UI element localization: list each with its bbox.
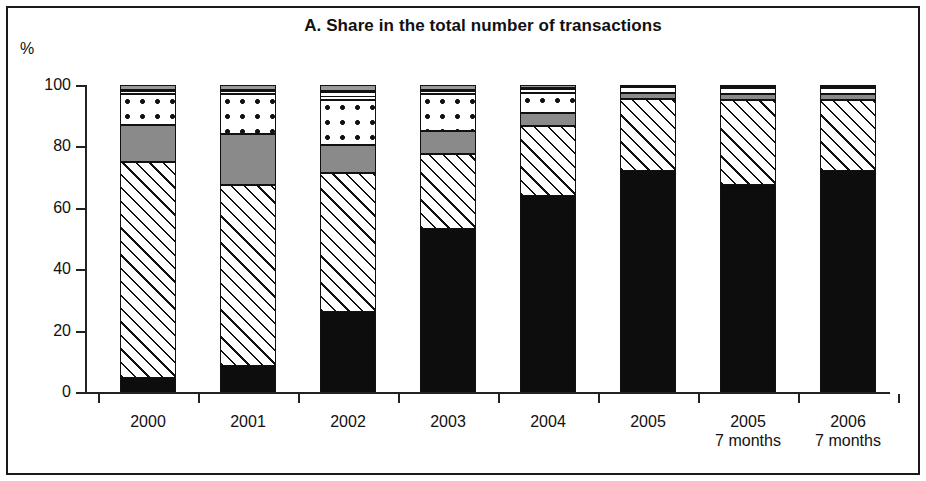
bar-segment-dotted: [121, 94, 175, 125]
bar-2005[interactable]: [620, 85, 676, 392]
x-axis-label-period: 7 months: [798, 431, 898, 450]
x-tick-mark: [198, 394, 200, 403]
bar-segment-diagonal-hatch: [521, 126, 575, 195]
figure-panel: A. Share in the total number of transact…: [0, 0, 926, 481]
bar-segment-solid-gray: [521, 113, 575, 127]
bar-2006-7-months[interactable]: [820, 85, 876, 392]
bar-segment-dotted: [821, 88, 875, 94]
y-tick-label: 100: [44, 76, 71, 94]
bar-segment-horizontal-lines: [321, 91, 375, 100]
y-tick-label: 0: [62, 383, 71, 401]
x-tick-mark: [698, 394, 700, 403]
x-axis-label-year: 2006: [830, 413, 866, 430]
x-tick-mark: [98, 394, 100, 403]
bar-segment-solid-gray: [321, 145, 375, 173]
bar-segment-solid-gray: [721, 94, 775, 100]
x-axis-label-2001: 2001: [198, 412, 298, 431]
x-tick-mark: [498, 394, 500, 403]
x-axis-label-year: 2003: [430, 413, 466, 430]
bar-segment-gray-cap: [321, 85, 375, 91]
y-axis-unit-label: %: [20, 40, 34, 58]
bar-segment-diagonal-hatch: [721, 100, 775, 184]
bar-segment-gray-cap: [721, 85, 775, 87]
x-axis-label-2000: 2000: [98, 412, 198, 431]
y-tick-mark: [76, 269, 85, 271]
bar-2004[interactable]: [520, 85, 576, 392]
bar-segment-gray-cap: [821, 85, 875, 87]
y-tick-mark: [76, 146, 85, 148]
x-axis-line: [85, 392, 890, 394]
x-axis-label-2003: 2003: [398, 412, 498, 431]
bar-2001[interactable]: [220, 85, 276, 392]
bar-segment-dotted: [521, 93, 575, 113]
x-axis-label-period: 7 months: [698, 431, 798, 450]
y-tick-label: 40: [53, 260, 71, 278]
x-tick-mark: [598, 394, 600, 403]
bar-segment-horizontal-lines: [221, 90, 275, 95]
x-axis-label-year: 2002: [330, 413, 366, 430]
x-axis-label-year: 2005: [730, 413, 766, 430]
y-tick-label: 60: [53, 199, 71, 217]
y-tick-label: 80: [53, 137, 71, 155]
bar-segment-gray-cap: [221, 85, 275, 90]
bar-segment-black-solid: [421, 229, 475, 392]
x-axis-label-2005-7-months: 20057 months: [698, 412, 798, 450]
bar-segment-solid-gray: [221, 134, 275, 185]
bar-segment-dotted: [321, 100, 375, 145]
y-tick-label: 20: [53, 322, 71, 340]
bar-segment-black-solid: [121, 378, 175, 392]
bar-segment-diagonal-hatch: [121, 162, 175, 378]
bar-segment-gray-cap: [421, 85, 475, 90]
bar-segment-gray-cap: [121, 85, 175, 90]
bar-segment-diagonal-hatch: [421, 154, 475, 229]
bar-segment-black-solid: [221, 366, 275, 392]
bar-segment-black-solid: [721, 185, 775, 392]
bar-segment-dotted: [621, 87, 675, 93]
x-tick-mark: [798, 394, 800, 403]
x-axis-label-2002: 2002: [298, 412, 398, 431]
bar-segment-black-solid: [521, 196, 575, 392]
chart-title: A. Share in the total number of transact…: [0, 16, 926, 36]
bar-segment-solid-gray: [421, 131, 475, 154]
x-axis-label-year: 2004: [530, 413, 566, 430]
y-tick-mark: [76, 85, 85, 87]
x-axis-label-2006-7-months: 20067 months: [798, 412, 898, 450]
x-axis-label-2005: 2005: [598, 412, 698, 431]
x-axis-label-year: 2005: [630, 413, 666, 430]
bar-segment-solid-gray: [121, 125, 175, 162]
bar-segment-horizontal-lines: [421, 90, 475, 95]
plot-area: 020406080100: [85, 85, 885, 392]
bar-2002[interactable]: [320, 85, 376, 392]
bar-2003[interactable]: [420, 85, 476, 392]
bar-segment-black-solid: [821, 171, 875, 392]
bar-segment-diagonal-hatch: [621, 99, 675, 171]
bar-segment-dotted: [721, 88, 775, 94]
bar-2000[interactable]: [120, 85, 176, 392]
y-tick-mark: [76, 392, 85, 394]
bar-segment-horizontal-lines: [621, 85, 675, 87]
x-tick-mark: [898, 394, 900, 403]
x-tick-mark: [298, 394, 300, 403]
bar-segment-black-solid: [321, 312, 375, 392]
bar-2005-7-months[interactable]: [720, 85, 776, 392]
bar-segment-dotted: [421, 94, 475, 131]
x-axis-label-year: 2000: [130, 413, 166, 430]
bar-segment-black-solid: [621, 171, 675, 392]
bar-segment-diagonal-hatch: [321, 173, 375, 313]
bar-segment-solid-gray: [621, 93, 675, 99]
y-tick-mark: [76, 208, 85, 210]
bar-segment-dotted: [221, 94, 275, 134]
x-axis-label-year: 2001: [230, 413, 266, 430]
bar-segment-diagonal-hatch: [221, 185, 275, 366]
x-tick-mark: [398, 394, 400, 403]
bar-segment-diagonal-hatch: [821, 100, 875, 171]
y-tick-mark: [76, 331, 85, 333]
bar-segment-gray-cap: [521, 85, 575, 88]
x-axis-label-2004: 2004: [498, 412, 598, 431]
bar-segment-horizontal-lines: [121, 90, 175, 95]
bar-segment-horizontal-lines: [521, 88, 575, 93]
bar-segment-solid-gray: [821, 94, 875, 100]
